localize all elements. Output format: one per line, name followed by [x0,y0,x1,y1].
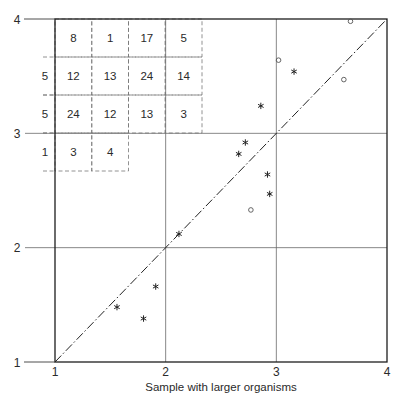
table-cell-value: 12 [67,70,80,82]
asterisk-marker [258,103,264,109]
table-cell-value: 14 [177,70,190,82]
x-tick-label: 1 [52,365,59,379]
circle-marker [342,77,347,82]
data-points [114,19,353,322]
table-cell-value: 17 [140,32,153,44]
circle-marker [249,208,254,213]
asterisk-marker [291,68,297,74]
x-axis-title: Sample with larger organisms [145,381,297,393]
table-row-label: 5 [42,70,48,82]
scatter-chart: 8117512132414524121335341 12341234 Sampl… [0,0,401,403]
table-cell-value: 24 [140,70,153,82]
asterisk-marker [153,283,159,289]
x-tick-label: 3 [273,365,280,379]
x-tick-label: 4 [384,365,391,379]
table-cell-value: 8 [70,32,76,44]
table-cell-value: 13 [104,70,117,82]
circle-marker [348,19,353,24]
table-cell-value: 5 [180,32,186,44]
x-tick-label: 2 [162,365,169,379]
y-tick-label: 4 [14,13,21,27]
table-cell-value: 3 [70,146,76,158]
table-row-label: 1 [42,146,48,158]
table-cell-value: 4 [107,146,114,158]
table-cell-value: 12 [104,108,117,120]
asterisk-marker [236,151,242,157]
table-cell-value: 1 [107,32,113,44]
table-cell-value: 3 [180,108,186,120]
circle-marker [276,58,281,63]
table-row-label: 5 [42,108,48,120]
asterisk-marker [267,191,273,197]
inset-count-table: 8117512132414524121335341 [42,19,202,171]
asterisk-marker [141,315,147,321]
asterisk-marker [243,139,249,145]
table-cell-value: 13 [140,108,153,120]
y-tick-label: 1 [14,356,21,370]
asterisk-marker [114,304,120,310]
y-tick-label: 3 [14,127,21,141]
asterisk-marker [265,171,271,177]
table-cell-value: 24 [67,108,80,120]
y-tick-label: 2 [14,241,21,255]
